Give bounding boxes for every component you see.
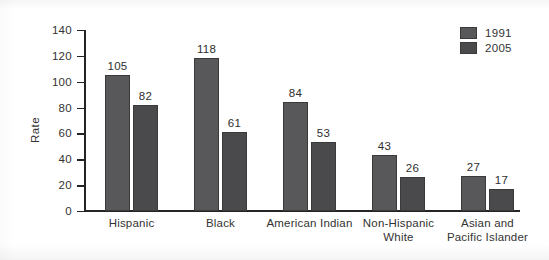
legend-item: 2005 [460,41,512,54]
legend-item: 1991 [460,26,512,39]
bar-value-label: 118 [197,43,216,55]
bar-value-label: 17 [495,174,508,186]
bar-value-label: 26 [406,162,419,174]
y-tick-mark [77,82,85,83]
y-tick-mark [77,30,85,31]
bar-group: 8453 [283,30,336,211]
plot-area: 0204060801001201401058211861845343262717 [84,30,520,211]
y-axis-title: Rate [29,117,41,143]
bar-1991-non-hispanic-white: 43 [372,155,397,211]
chart-legend: 19912005 [460,26,512,56]
y-tick-label: 40 [59,153,72,165]
legend-label: 1991 [485,27,512,39]
y-tick-label: 100 [52,76,72,88]
bar-2005-hispanic: 82 [133,105,158,211]
y-tick-label: 140 [52,24,72,36]
x-category-label: Asian and Pacific Islander [433,216,542,244]
bar-group: 10582 [105,30,158,211]
y-tick-mark [77,133,85,134]
y-tick-mark [77,211,85,212]
bar-2005-american-indian: 53 [311,142,336,211]
y-tick-label: 120 [52,50,72,62]
bar-chart-figure: Rate 02040608010012014010582118618453432… [0,0,549,260]
bar-value-label: 105 [107,60,127,72]
legend-swatch [460,42,477,54]
bar-value-label: 43 [378,140,391,152]
y-tick-mark [77,185,85,186]
bar-2005-asian-and-pacific-islander: 17 [489,189,514,211]
y-tick-label: 0 [65,205,72,217]
y-tick-label: 80 [59,102,72,114]
legend-label: 2005 [485,42,512,54]
bar-1991-american-indian: 84 [283,102,308,211]
bar-value-label: 84 [289,87,302,99]
bar-value-label: 53 [317,127,330,139]
bar-2005-black: 61 [222,132,247,211]
y-tick-mark [77,108,85,109]
y-tick-label: 60 [59,127,72,139]
y-tick-mark [77,56,85,57]
y-tick-mark [77,159,85,160]
bar-group: 2717 [461,30,514,211]
bar-1991-hispanic: 105 [105,75,130,211]
legend-swatch [460,27,477,39]
bar-group: 11861 [194,30,247,211]
bar-group: 4326 [372,30,425,211]
y-tick-label: 20 [59,179,72,191]
bar-1991-asian-and-pacific-islander: 27 [461,176,486,211]
bar-value-label: 61 [228,117,241,129]
bar-2005-non-hispanic-white: 26 [400,177,425,211]
bar-1991-black: 118 [194,58,219,211]
bar-value-label: 82 [139,90,152,102]
bar-value-label: 27 [467,161,480,173]
